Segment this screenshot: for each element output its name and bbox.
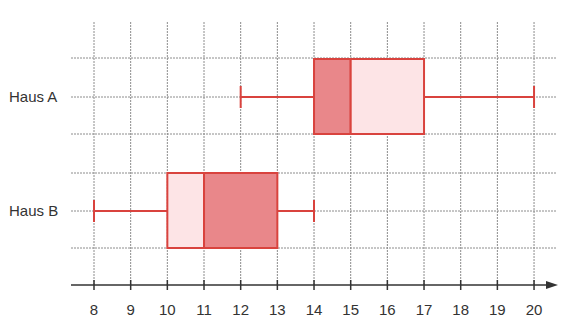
boxplot-haus-a bbox=[241, 59, 534, 134]
x-tick-label: 12 bbox=[226, 301, 256, 319]
category-label-haus-b: Haus B bbox=[9, 202, 58, 220]
box-upper-half bbox=[351, 59, 424, 134]
x-axis-arrow-icon bbox=[546, 281, 558, 289]
boxplot-haus-b bbox=[94, 173, 314, 248]
x-tick-label: 15 bbox=[336, 301, 366, 319]
x-tick-label: 18 bbox=[446, 301, 476, 319]
category-label-haus-a: Haus A bbox=[9, 88, 57, 106]
x-tick-label: 16 bbox=[372, 301, 402, 319]
boxplot-chart bbox=[0, 0, 568, 331]
box-lower-half bbox=[314, 59, 351, 134]
box-lower-half bbox=[167, 173, 204, 248]
x-tick-label: 13 bbox=[262, 301, 292, 319]
x-tick-label: 14 bbox=[299, 301, 329, 319]
x-tick-label: 20 bbox=[519, 301, 549, 319]
x-axis bbox=[71, 280, 558, 290]
x-tick-label: 9 bbox=[116, 301, 146, 319]
box-upper-half bbox=[204, 173, 277, 248]
x-tick-label: 10 bbox=[152, 301, 182, 319]
x-tick-label: 11 bbox=[189, 301, 219, 319]
boxplots bbox=[94, 59, 534, 248]
x-tick-label: 17 bbox=[409, 301, 439, 319]
x-tick-label: 8 bbox=[79, 301, 109, 319]
x-tick-label: 19 bbox=[482, 301, 512, 319]
